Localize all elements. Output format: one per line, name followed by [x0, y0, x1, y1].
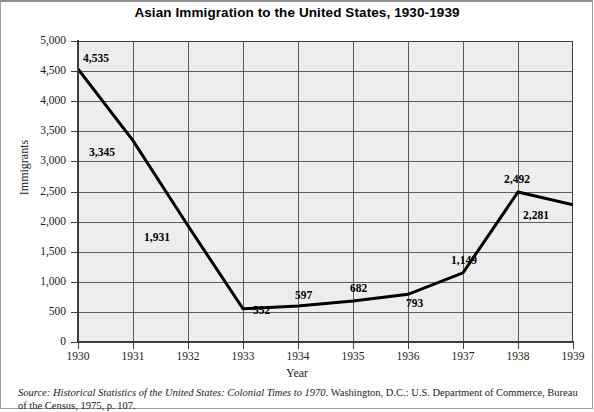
data-point-label: 4,535: [83, 52, 109, 64]
y-axis-tick-label: 1,500: [40, 245, 66, 257]
data-point-label: 597: [295, 289, 312, 301]
y-axis-tick-label: 1,000: [40, 275, 66, 287]
source-note: Source: Historical Statistics of the Uni…: [18, 386, 584, 412]
x-axis-tick: [78, 343, 79, 349]
x-axis-tick-label: 1938: [488, 350, 548, 362]
data-point-label: 2,492: [504, 173, 530, 185]
x-axis-tick-label: 1932: [158, 350, 218, 362]
data-point-label: 1,149: [451, 254, 477, 266]
x-axis-tick-label: 1934: [268, 350, 328, 362]
y-axis-tick: [71, 41, 78, 42]
plot-area: [78, 41, 573, 342]
y-axis-tick: [71, 161, 78, 162]
x-axis-tick-label: 1936: [378, 350, 438, 362]
y-axis-tick-label: 3,000: [40, 154, 66, 166]
x-axis-tick-label: 1935: [323, 350, 383, 362]
x-axis-tick: [353, 343, 354, 349]
x-axis-tick: [298, 343, 299, 349]
data-point-label: 552: [253, 304, 270, 316]
x-axis-tick: [518, 343, 519, 349]
y-axis-tick: [71, 71, 78, 72]
x-axis-tick: [408, 343, 409, 349]
y-axis-tick-label: 500: [49, 305, 66, 317]
y-axis-tick-label: 3,500: [40, 124, 66, 136]
x-axis-tick-label: 1933: [213, 350, 273, 362]
data-point-label: 3,345: [89, 146, 115, 158]
y-axis-tick-label: 4,000: [40, 94, 66, 106]
x-axis-tick-label: 1931: [103, 350, 163, 362]
chart-title: Asian Immigration to the United States, …: [0, 5, 594, 20]
y-axis-tick-label: 2,500: [40, 185, 66, 197]
data-point-label: 2,281: [523, 209, 549, 221]
x-axis-line: [77, 341, 574, 343]
x-axis-tick-label: 1937: [433, 350, 493, 362]
y-axis-tick: [71, 252, 78, 253]
x-axis-tick-label: 1930: [48, 350, 108, 362]
x-axis-tick: [463, 343, 464, 349]
source-prefix: Source:: [18, 387, 50, 398]
source-rest: . Washington, D.C.: U.S. Department of C…: [326, 387, 578, 398]
y-axis-tick-label: 5,000: [40, 34, 66, 46]
x-axis-tick: [573, 343, 574, 349]
y-axis-tick-label: 4,500: [40, 64, 66, 76]
y-axis-tick: [71, 282, 78, 283]
y-axis-tick: [71, 222, 78, 223]
data-point-label: 682: [350, 282, 367, 294]
y-axis-tick-label: 2,000: [40, 215, 66, 227]
data-point-label: 793: [406, 297, 423, 309]
y-axis-title: Immigrants: [17, 103, 32, 233]
y-axis-tick: [71, 312, 78, 313]
x-axis-tick: [188, 343, 189, 349]
y-axis-tick: [71, 342, 78, 343]
y-axis-tick: [71, 192, 78, 193]
y-axis-tick: [71, 131, 78, 132]
y-axis-tick: [71, 101, 78, 102]
data-point-label: 1,931: [144, 231, 170, 243]
data-line-series: [78, 41, 573, 342]
y-axis-tick-label: 0: [60, 335, 66, 347]
x-axis-title: Year: [0, 366, 594, 381]
source-line-2: of the Census, 1975, p. 107.: [18, 399, 584, 412]
source-work-title: Historical Statistics of the United Stat…: [53, 387, 326, 398]
x-axis-tick-label: 1939: [543, 350, 594, 362]
x-axis-tick: [243, 343, 244, 349]
x-axis-tick: [133, 343, 134, 349]
